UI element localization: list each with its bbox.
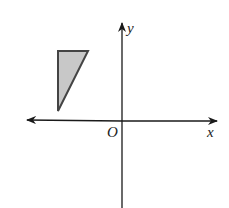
- x-axis-negative: [27, 120, 122, 121]
- coordinate-plane-diagram: y x O: [0, 0, 229, 208]
- y-axis-label: y: [125, 20, 134, 36]
- x-axis-label: x: [206, 124, 214, 140]
- origin-label: O: [107, 124, 118, 140]
- shaded-triangle: [58, 51, 88, 111]
